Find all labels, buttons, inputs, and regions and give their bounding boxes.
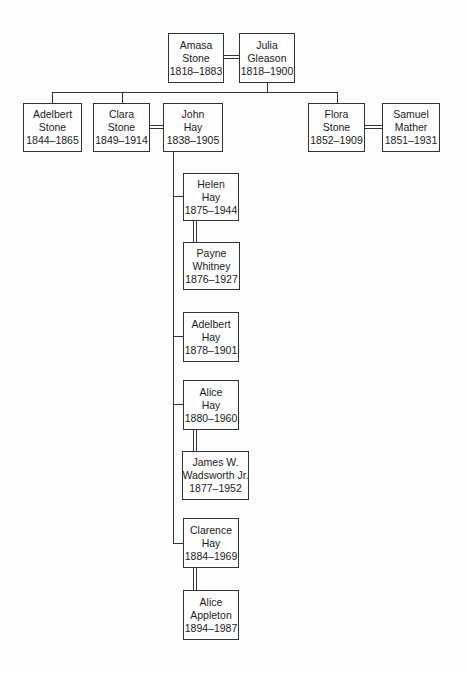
marriage-line-amasa-julia — [224, 55, 239, 59]
person-box-adelbert-hay: Adelbert Hay 1878–1901 — [183, 312, 239, 362]
person-surname: Mather — [395, 121, 428, 134]
person-given-name: Alice — [200, 386, 223, 399]
person-surname: Hay — [202, 399, 221, 412]
person-box-samuel-mather: Samuel Mather 1851–1931 — [382, 103, 440, 152]
person-box-julia-gleason: Julia Gleason 1818–1900 — [239, 33, 295, 83]
person-given-name: Julia — [256, 39, 278, 52]
person-box-alice-hay: Alice Hay 1880–1960 — [183, 380, 239, 430]
person-given-name: Adelbert — [191, 318, 230, 331]
person-surname: Hay — [202, 331, 221, 344]
person-given-name: Clara — [109, 108, 134, 121]
branch-line-helen-hay — [173, 196, 183, 197]
marriage-line-alice-james — [193, 430, 197, 451]
person-surname: Hay — [202, 537, 221, 550]
marriage-line-flora-samuel — [365, 125, 382, 129]
drop-line-clara-stone — [122, 92, 123, 103]
person-given-name: Clarence — [190, 524, 232, 537]
marriage-line-clara-john — [150, 125, 163, 129]
branch-line-adelbert-hay — [173, 336, 183, 337]
person-box-payne-whitney: Payne Whitney 1876–1927 — [183, 242, 240, 290]
person-dates: 1852–1909 — [310, 134, 363, 147]
person-dates: 1878–1901 — [185, 344, 238, 357]
person-surname: Stone — [182, 52, 209, 65]
person-surname: Stone — [39, 121, 66, 134]
person-given-name: Alice — [200, 596, 223, 609]
person-box-clarence-hay: Clarence Hay 1884–1969 — [183, 518, 239, 568]
person-given-name: James W. — [192, 456, 238, 469]
person-box-flora-stone: Flora Stone 1852–1909 — [308, 103, 365, 152]
person-surname: Stone — [323, 121, 350, 134]
person-dates: 1877–1952 — [189, 482, 242, 495]
person-dates: 1884–1969 — [185, 550, 238, 563]
person-box-james-wadsworth-jr: James W. Wadsworth Jr. 1877–1952 — [182, 451, 249, 500]
person-given-name: Payne — [197, 247, 227, 260]
person-given-name: Helen — [197, 178, 224, 191]
person-dates: 1851–1931 — [385, 134, 438, 147]
person-surname: Stone — [108, 121, 135, 134]
person-box-john-hay: John Hay 1838–1905 — [163, 103, 223, 152]
person-box-clara-stone: Clara Stone 1849–1914 — [93, 103, 150, 152]
descent-trunk-john-hay-children — [173, 152, 174, 543]
drop-line-flora-stone — [337, 92, 338, 103]
person-dates: 1838–1905 — [167, 134, 220, 147]
person-surname: Hay — [184, 121, 203, 134]
branch-line-alice-hay — [173, 404, 183, 405]
person-dates: 1876–1927 — [185, 273, 238, 286]
person-given-name: John — [182, 108, 205, 121]
person-dates: 1818–1900 — [241, 65, 294, 78]
person-dates: 1894–1987 — [185, 622, 238, 635]
person-dates: 1849–1914 — [95, 134, 148, 147]
family-tree-diagram: Amasa Stone 1818–1883 Julia Gleason 1818… — [0, 0, 467, 673]
person-dates: 1844–1865 — [26, 134, 79, 147]
person-box-amasa-stone: Amasa Stone 1818–1883 — [168, 33, 224, 83]
person-given-name: Flora — [325, 108, 349, 121]
person-surname: Wadsworth Jr. — [182, 469, 248, 482]
person-surname: Hay — [202, 191, 221, 204]
person-box-helen-hay: Helen Hay 1875–1944 — [183, 173, 239, 221]
sibling-line-gen2 — [52, 92, 338, 93]
branch-line-clarence-hay — [173, 543, 183, 544]
person-surname: Appleton — [190, 609, 231, 622]
person-dates: 1880–1960 — [185, 412, 238, 425]
person-dates: 1818–1883 — [170, 65, 223, 78]
person-given-name: Samuel — [393, 108, 429, 121]
person-box-alice-appleton: Alice Appleton 1894–1987 — [183, 590, 239, 640]
person-dates: 1875–1944 — [185, 204, 238, 217]
drop-line-adelbert-stone — [52, 92, 53, 103]
marriage-line-clarence-alice-appleton — [193, 568, 197, 590]
person-surname: Gleason — [247, 52, 286, 65]
person-box-adelbert-stone: Adelbert Stone 1844–1865 — [23, 103, 82, 152]
person-given-name: Adelbert — [33, 108, 72, 121]
marriage-line-helen-payne — [193, 221, 197, 242]
person-given-name: Amasa — [180, 39, 213, 52]
person-surname: Whitney — [193, 260, 231, 273]
